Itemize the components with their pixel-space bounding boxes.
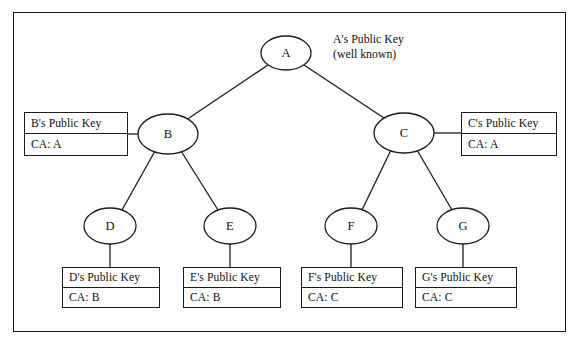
node-label-G: G	[458, 219, 467, 234]
certificate-box-g: G's Public KeyCA: C	[415, 267, 517, 308]
certificate-issuer: CA: A	[462, 134, 556, 155]
certificate-box-e: E's Public KeyCA: B	[183, 267, 281, 308]
certificate-hierarchy-figure: ABCDEFG B's Public KeyCA: AC's Public Ke…	[0, 0, 581, 350]
node-label-D: D	[105, 219, 114, 234]
certificate-subject: D's Public Key	[63, 268, 159, 288]
certificate-issuer: CA: B	[63, 288, 159, 308]
root-annotation-line-1: A's Public Key	[333, 32, 404, 47]
root-public-key-annotation: A's Public Key (well known)	[333, 32, 404, 62]
certificate-subject: C's Public Key	[462, 113, 556, 134]
certificate-subject: G's Public Key	[416, 268, 516, 288]
certificate-subject: B's Public Key	[25, 113, 127, 134]
node-label-B: B	[164, 127, 173, 142]
certificate-subject: F's Public Key	[302, 268, 402, 288]
certificate-box-f: F's Public KeyCA: C	[301, 267, 403, 308]
root-annotation-line-2: (well known)	[333, 47, 404, 62]
certificate-issuer: CA: A	[25, 134, 127, 155]
node-label-E: E	[226, 219, 234, 234]
certificate-subject: E's Public Key	[184, 268, 280, 288]
node-label-F: F	[347, 219, 354, 234]
certificate-issuer: CA: B	[184, 288, 280, 308]
certificate-issuer: CA: C	[416, 288, 516, 308]
node-label-A: A	[281, 46, 290, 61]
node-label-C: C	[400, 126, 409, 141]
certificate-issuer: CA: C	[302, 288, 402, 308]
certificate-box-b: B's Public KeyCA: A	[24, 112, 128, 156]
certificate-box-c: C's Public KeyCA: A	[461, 112, 557, 156]
certificate-box-d: D's Public KeyCA: B	[62, 267, 160, 308]
